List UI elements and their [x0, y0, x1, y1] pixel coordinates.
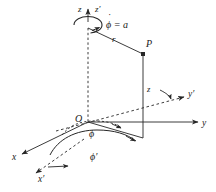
y-prime-direction-arrow: [160, 90, 171, 99]
y-prime-axis-label: y′: [187, 89, 195, 99]
diagram-canvas: z z′ ϕ = a ˙ r P z y′ y O x x′ ϕ ϕ′: [0, 0, 216, 192]
spin-rate-dot-accent: ˙: [108, 12, 111, 23]
point-p-marker: [141, 52, 145, 56]
x-prime-axis-label: x′: [37, 174, 45, 184]
point-p-label: P: [145, 38, 152, 49]
height-label: z: [146, 84, 151, 94]
radius-label: r: [112, 34, 116, 44]
z-prime-axis-label: z′: [94, 4, 102, 14]
cylindrical-coordinates-figure: z z′ ϕ = a ˙ r P z y′ y O x x′ ϕ ϕ′: [0, 0, 216, 192]
origin-label: O: [75, 113, 82, 124]
z-axis-label: z: [77, 4, 82, 14]
phi-angle-label: ϕ: [89, 128, 94, 139]
phi-prime-angle-label: ϕ′: [90, 151, 98, 162]
x-prime-direction-arrow: [48, 166, 68, 167]
y-axis-label: y: [201, 118, 207, 128]
phi-prime-arc-arrowhead: [126, 136, 135, 141]
x-axis-line: [22, 122, 88, 154]
x-axis-label: x: [11, 152, 17, 162]
